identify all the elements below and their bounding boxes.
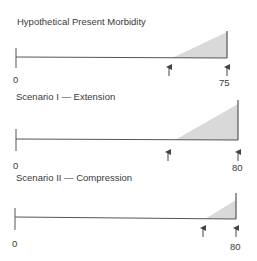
end-label: 80 — [232, 162, 243, 173]
panel-present — [16, 31, 227, 76]
morbidity-area — [175, 104, 238, 140]
start-label: 0 — [12, 238, 17, 249]
end-label: 75 — [219, 77, 230, 88]
start-label: 0 — [13, 160, 18, 171]
panel-extension — [16, 100, 238, 161]
morbidity-area — [172, 32, 227, 58]
panel-title: Scenario I — Extension — [16, 91, 115, 102]
lifespan-line — [15, 217, 236, 219]
panel-title: Hypothetical Present Morbidity — [17, 16, 146, 27]
morbidity-diagram — [0, 0, 257, 261]
panel-title: Scenario II — Compression — [16, 172, 132, 183]
end-label: 80 — [230, 241, 241, 252]
morbidity-area — [205, 200, 236, 219]
start-label: 0 — [13, 74, 18, 85]
panel-compression — [15, 193, 236, 237]
